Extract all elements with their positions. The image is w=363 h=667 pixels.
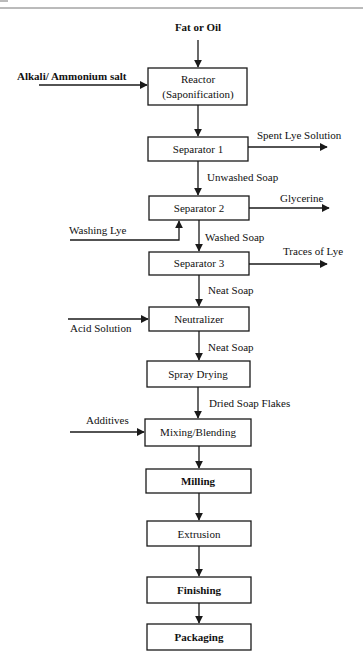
input-additives: Additives [86, 414, 129, 426]
step-spray-drying: Spray Drying [147, 361, 250, 387]
flow-dried-soap-flakes: Dried Soap Flakes [209, 397, 290, 409]
packaging-label: Packaging [175, 631, 224, 643]
flow-neat-soap-2: Neat Soap [208, 341, 254, 353]
step-finishing: Finishing [147, 577, 251, 603]
input-alkali: Alkali/ Ammonium salt [17, 70, 127, 82]
mixing-blending-label: Mixing/Blending [160, 426, 236, 438]
output-glycerine: Glycerine [280, 192, 323, 204]
step-separator-1: Separator 1 [148, 137, 248, 161]
milling-label: Milling [181, 475, 216, 487]
soap-process-flowchart: Fat or Oil Alkali/ Ammonium salt Reactor… [0, 0, 363, 667]
step-mixing-blending: Mixing/Blending [145, 419, 251, 446]
separator-3-label: Separator 3 [174, 257, 225, 269]
output-traces-of-lye: Traces of Lye [283, 245, 343, 257]
extrusion-label: Extrusion [178, 528, 221, 540]
neutralizer-label: Neutralizer [174, 313, 224, 325]
separator-1-label: Separator 1 [173, 143, 223, 155]
output-spent-lye: Spent Lye Solution [257, 129, 342, 141]
step-separator-3: Separator 3 [149, 252, 249, 275]
flow-neat-soap-1: Neat Soap [208, 284, 254, 296]
reactor-sublabel: (Saponification) [162, 88, 234, 101]
finishing-label: Finishing [177, 584, 222, 596]
step-neutralizer: Neutralizer [149, 307, 249, 331]
flow-unwashed-soap: Unwashed Soap [207, 171, 279, 183]
separator-2-label: Separator 2 [174, 202, 224, 214]
step-reactor: Reactor (Saponification) [148, 68, 247, 105]
input-washing-lye: Washing Lye [69, 224, 127, 236]
input-acid-solution: Acid Solution [70, 322, 132, 334]
reactor-label: Reactor [181, 73, 216, 85]
spray-drying-label: Spray Drying [168, 368, 228, 380]
flow-washed-soap: Washed Soap [205, 231, 265, 243]
step-packaging: Packaging [147, 624, 251, 650]
step-separator-2: Separator 2 [149, 196, 249, 220]
input-fat-or-oil: Fat or Oil [175, 21, 221, 33]
step-extrusion: Extrusion [147, 521, 251, 546]
step-milling: Milling [146, 469, 251, 493]
